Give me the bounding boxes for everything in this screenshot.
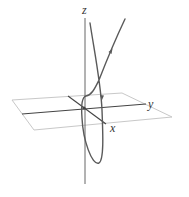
y-axis-label: y — [147, 97, 154, 111]
space-curve — [82, 19, 125, 163]
origin-point — [82, 106, 85, 109]
diagram-canvas: z y x — [0, 0, 189, 197]
x-axis-label: x — [109, 121, 116, 135]
space-curve-diagram: z y x — [0, 0, 189, 197]
z-axis-label: z — [81, 3, 87, 17]
